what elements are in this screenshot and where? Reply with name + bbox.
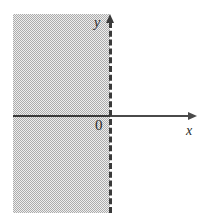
- y-axis-arrowhead-icon: [106, 14, 114, 23]
- x-axis-arrowhead-icon: [188, 112, 197, 120]
- y-axis-dashed-boundary-line: [109, 22, 112, 213]
- graph-figure: y 0 x: [0, 0, 203, 213]
- shaded-region-wash: [13, 14, 110, 213]
- origin-label: 0: [95, 118, 103, 133]
- y-axis-label: y: [94, 16, 100, 30]
- x-axis-label: x: [186, 124, 192, 138]
